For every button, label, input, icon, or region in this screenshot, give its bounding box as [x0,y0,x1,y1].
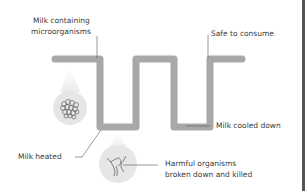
microorganism-cluster-icon [53,91,87,125]
leader-heated [75,130,101,157]
label-start-line1: Milk containing [33,16,90,26]
label-killed-line1: Harmful organisms [165,159,236,169]
broken-organism-icon [99,145,137,183]
label-cooled: Milk cooled down [216,121,281,131]
label-start-line2: microorganisms [31,27,91,37]
label-end: Safe to consume [211,29,274,39]
panel-border [302,0,305,191]
drop-beam [60,66,80,92]
label-heated: Milk heated [18,152,62,162]
label-killed-line2: broken down and killed [165,170,252,180]
